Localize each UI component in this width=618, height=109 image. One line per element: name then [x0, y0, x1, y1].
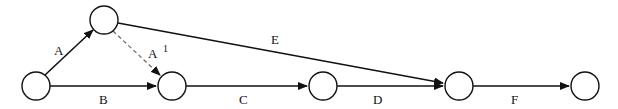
edge-label-F: F — [511, 92, 518, 107]
edge-label-A1: A — [148, 46, 158, 61]
node-4 — [309, 72, 337, 100]
network-diagram: A B A 1 C E D F — [0, 0, 618, 109]
edge-A — [45, 30, 93, 75]
edge-label-A: A — [54, 43, 64, 58]
edge-label-D: D — [373, 92, 382, 107]
edge-label-B: B — [99, 92, 108, 107]
node-3 — [158, 72, 186, 100]
edge-label-E: E — [271, 32, 279, 47]
node-2 — [90, 6, 118, 34]
edge-label-C: C — [239, 92, 248, 107]
node-5 — [445, 72, 473, 100]
node-1 — [22, 72, 50, 100]
edge-label-A1-superscript: 1 — [163, 43, 168, 54]
node-6 — [571, 72, 599, 100]
